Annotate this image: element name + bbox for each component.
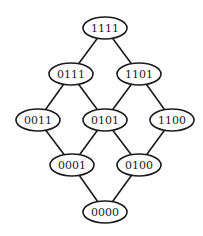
node-label: 0100 xyxy=(125,159,153,172)
node-label: 1101 xyxy=(125,68,153,81)
node-label: 1111 xyxy=(91,22,119,35)
node-label: 0000 xyxy=(91,206,119,219)
node-0011: 0011 xyxy=(16,109,60,131)
node-label: 0101 xyxy=(91,114,119,127)
node-1111: 1111 xyxy=(83,17,127,39)
node-layer: 1111 0111 1101 0011 0101 1100 0001 0100 xyxy=(16,17,194,223)
node-label: 1100 xyxy=(158,114,186,127)
node-1100: 1100 xyxy=(150,109,194,131)
node-0100: 0100 xyxy=(117,154,161,176)
node-1101: 1101 xyxy=(117,63,161,85)
node-label: 0011 xyxy=(24,114,52,127)
node-0000: 0000 xyxy=(83,201,127,223)
node-label: 0111 xyxy=(57,68,85,81)
lattice-diagram: 1111 0111 1101 0011 0101 1100 0001 0100 xyxy=(0,0,203,236)
node-label: 0001 xyxy=(58,159,86,172)
node-0101: 0101 xyxy=(83,109,127,131)
node-0001: 0001 xyxy=(50,154,94,176)
node-0111: 0111 xyxy=(49,63,93,85)
